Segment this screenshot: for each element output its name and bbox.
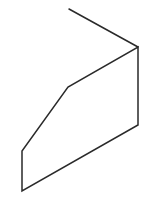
lead-line <box>69 9 138 47</box>
pentagon-shape <box>22 47 138 191</box>
line-drawing <box>0 0 152 206</box>
diagram-canvas <box>0 0 152 206</box>
